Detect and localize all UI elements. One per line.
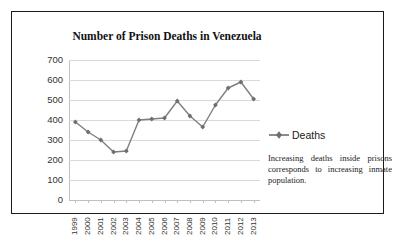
figure-border: Number of Prison Deaths in Venezuela 010… (11, 11, 384, 214)
chart-title: Number of Prison Deaths in Venezuela (52, 28, 282, 44)
x-axis-tick-label: 2005 (147, 203, 158, 235)
x-axis-tick-label: 2009 (198, 203, 209, 235)
data-point-marker (124, 149, 129, 154)
y-axis-tick-label: 500 (29, 95, 63, 105)
x-axis-tick-label: 2012 (236, 203, 247, 235)
y-axis-tick-label: 400 (29, 115, 63, 125)
x-axis-tick-label: 2006 (160, 203, 171, 235)
legend-label: Deaths (292, 129, 325, 141)
y-axis-tick-label: 0 (29, 195, 63, 205)
x-axis-tick-label: 2003 (121, 203, 132, 235)
y-axis-tick-label: 700 (29, 55, 63, 65)
y-axis-tick-label: 100 (29, 175, 63, 185)
y-axis-tick-label: 300 (29, 135, 63, 145)
chart-figure: Number of Prison Deaths in Venezuela 010… (0, 0, 397, 235)
x-axis-tick-label: 2001 (96, 203, 107, 235)
data-point-marker (137, 118, 142, 123)
x-axis-tick-label: 2010 (210, 203, 221, 235)
x-axis-tick-label: 2013 (249, 203, 260, 235)
y-axis-tick-label: 600 (29, 75, 63, 85)
x-axis-tick-label: 2007 (172, 203, 183, 235)
data-point-marker (149, 117, 154, 122)
legend-marker-icon (268, 129, 290, 141)
y-axis-tick-label: 200 (29, 155, 63, 165)
annotation-text: Increasing deaths inside prisons corresp… (268, 153, 392, 186)
x-axis-tick-label: 2008 (185, 203, 196, 235)
plot-area (69, 60, 260, 200)
x-axis-tick-label: 2011 (223, 203, 234, 235)
x-axis-tick-label: 1999 (70, 203, 81, 235)
legend: Deaths (268, 129, 325, 141)
series-deaths (69, 60, 260, 201)
x-axis-tick-label: 2004 (134, 203, 145, 235)
x-axis-tick-label: 2000 (83, 203, 94, 235)
x-axis-tick-label: 2002 (109, 203, 120, 235)
